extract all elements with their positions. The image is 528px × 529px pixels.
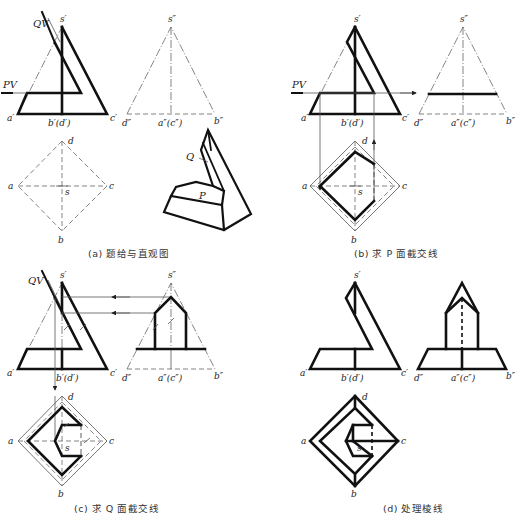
- label-ac-side: a″(c″): [451, 118, 476, 128]
- label-bd-front: b′(d′): [48, 118, 71, 128]
- label-bd-front: b′(d′): [341, 118, 364, 128]
- label-s-top: s: [357, 443, 362, 453]
- label-a-front: a′: [7, 368, 14, 378]
- front-view: QV s′ a′ b′(d′) c′: [7, 270, 170, 390]
- label-a-front: a′: [300, 368, 307, 378]
- label-s-top: s: [65, 443, 70, 453]
- label-a-front: a′: [301, 113, 308, 123]
- front-view: QV PV s′ a′ b′(d′) c′: [2, 12, 117, 128]
- isometric-sketch: Q P: [164, 130, 251, 230]
- label-a-top: a: [8, 436, 13, 446]
- side-view: s″ d″ a″(c″) b″: [414, 14, 516, 128]
- label-c-front: c′: [402, 113, 409, 123]
- label-bd-front: b′(d′): [56, 373, 79, 383]
- label-s-side: s″: [168, 14, 177, 24]
- label-c-front: c′: [401, 368, 408, 378]
- label-b-side: b″: [214, 116, 224, 126]
- top-view: d a c b s: [301, 392, 406, 499]
- caption-a: (a) 题给与直观图: [88, 248, 169, 259]
- label-b-top: b: [351, 235, 357, 245]
- top-view: d a c b s: [8, 392, 114, 499]
- top-view: d a c b s: [302, 136, 407, 245]
- side-view: s″ d″ a″(c″) b″: [122, 270, 224, 383]
- label-b-top: b: [58, 489, 64, 499]
- label-d-top: d: [362, 136, 368, 146]
- label-d-top: d: [68, 136, 74, 146]
- side-view: d″ a″(c″) b″: [414, 283, 516, 383]
- label-d-side: d″: [122, 118, 132, 128]
- side-view: s″ d″ a″(c″) b″: [122, 14, 224, 128]
- label-ac-side: a″(c″): [451, 373, 476, 383]
- label-c-top: c: [402, 181, 407, 191]
- label-d-top: d: [362, 392, 368, 402]
- label-d-top: d: [68, 392, 74, 402]
- label-a-top: a: [302, 181, 307, 191]
- caption-c: (c) 求 Q 面截交线: [74, 503, 159, 514]
- panel-a: QV PV s′ a′ b′(d′) c′ s″ d″ a″(c″) b″ d …: [2, 12, 251, 259]
- label-s-front: s′: [60, 14, 67, 24]
- label-bd-front: b′(d′): [341, 373, 364, 383]
- label-s-front: s′: [60, 270, 67, 280]
- caption-b: (b) 求 P 面截交线: [354, 248, 438, 259]
- label-d-side: d″: [122, 373, 132, 383]
- front-view: PV s′ a′ b′(d′) c′: [291, 14, 416, 200]
- label-qv: QV: [28, 275, 45, 286]
- label-qv: QV: [33, 18, 50, 29]
- label-ac-side: a″(c″): [158, 373, 183, 383]
- label-a-top: a: [301, 436, 306, 446]
- label-b-side: b″: [506, 371, 516, 381]
- label-c-top: c: [109, 436, 114, 446]
- label-s-front: s′: [354, 14, 361, 24]
- label-c-top: c: [401, 436, 406, 446]
- label-a-top: a: [8, 181, 13, 191]
- label-s-top: s: [358, 187, 363, 197]
- label-s-side: s″: [168, 270, 177, 280]
- label-iso-q: Q: [186, 151, 194, 162]
- panel-c: QV s′ a′ b′(d′) c′ s″ d″ a″(c″) b″: [7, 270, 224, 514]
- label-iso-p: P: [198, 190, 206, 201]
- pyramid-section-diagram: QV PV s′ a′ b′(d′) c′ s″ d″ a″(c″) b″ d …: [0, 0, 528, 529]
- label-b-side: b″: [214, 371, 224, 381]
- label-ac-side: a″(c″): [158, 118, 183, 128]
- label-d-side: d″: [414, 373, 424, 383]
- front-view: s′ a′ b′(d′) c′: [300, 270, 408, 383]
- label-s-front: s′: [354, 270, 361, 280]
- panel-b: PV s′ a′ b′(d′) c′ s″ d″ a″(c″) b″ d a: [291, 14, 516, 259]
- label-b-top: b: [351, 489, 357, 499]
- label-c-front: c′: [110, 368, 117, 378]
- label-c-top: c: [109, 181, 114, 191]
- top-view: d a c b s: [8, 136, 114, 245]
- label-c-front: c′: [110, 113, 117, 123]
- label-d-side: d″: [414, 118, 424, 128]
- label-a-front: a′: [7, 113, 14, 123]
- panel-d: s′ a′ b′(d′) c′ d″ a″(c″) b″ d a: [300, 270, 516, 514]
- label-s-top: s: [65, 187, 70, 197]
- label-b-top: b: [58, 235, 64, 245]
- label-pv: PV: [2, 79, 19, 90]
- label-pv: PV: [291, 79, 308, 90]
- label-s-side: s″: [460, 14, 469, 24]
- caption-d: (d) 处理棱线: [383, 503, 443, 514]
- label-b-side: b″: [506, 116, 516, 126]
